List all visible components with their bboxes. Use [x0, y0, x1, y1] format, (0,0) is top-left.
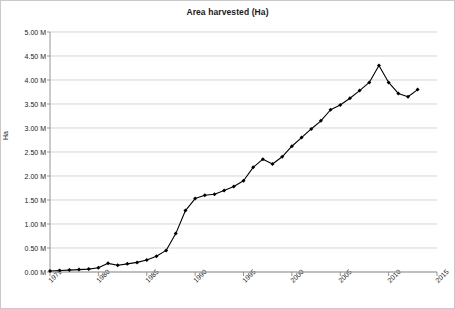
gridlines	[50, 32, 437, 272]
series-line	[50, 66, 418, 271]
plot-area	[0, 0, 455, 309]
series-markers	[48, 64, 420, 273]
chart-container: Area harvested (Ha) Ha 5.00 M4.50 M4.00 …	[0, 0, 455, 309]
x-tick-marks	[50, 272, 437, 276]
